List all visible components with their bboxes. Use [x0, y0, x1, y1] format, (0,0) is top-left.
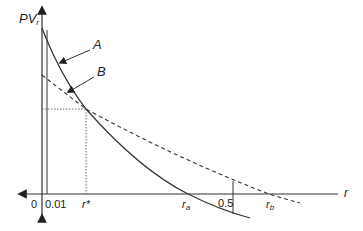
curve-a-label: A [93, 38, 102, 51]
curve-b-label: B [97, 65, 106, 78]
tick-r-min: 0.01 [45, 199, 66, 210]
curve-a [42, 28, 250, 218]
tick-r-b: rb [266, 199, 274, 212]
tick-r-star: r* [82, 199, 90, 210]
tick-origin: 0 [31, 199, 37, 210]
y-axis-label: PVr [19, 12, 39, 27]
diagram-svg [0, 0, 363, 231]
label-a-leader [62, 50, 90, 62]
x-axis-label: r [344, 187, 348, 199]
label-b-leader [70, 77, 94, 91]
tick-r-a: ra [182, 199, 190, 212]
tick-half: 0.5 [218, 198, 233, 209]
pv-rate-diagram: PVr r A B 0 0.01 r* ra 0.5 rb [0, 0, 363, 231]
